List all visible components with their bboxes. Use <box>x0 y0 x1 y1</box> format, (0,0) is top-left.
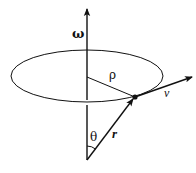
theta-arc <box>87 146 96 149</box>
theta-label: θ <box>90 130 97 144</box>
particle-dot <box>132 94 137 99</box>
rho-label: ρ <box>109 68 116 82</box>
rotation-diagram: ω ρ v θ r <box>0 0 196 173</box>
velocity-label: v <box>164 86 170 100</box>
radius-label: r <box>112 126 118 141</box>
omega-label: ω <box>72 26 84 41</box>
